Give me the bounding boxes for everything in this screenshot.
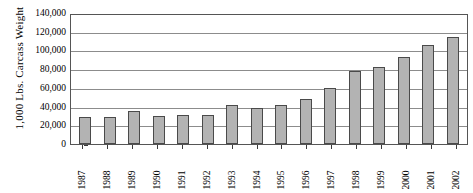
x-tick-mark — [132, 145, 133, 149]
x-tick-label-1989: 1989 — [127, 171, 137, 190]
bar-slot — [441, 15, 466, 144]
bar-1987[interactable] — [79, 117, 91, 144]
x-tick-label-2000: 2000 — [401, 171, 411, 190]
bar-slot — [122, 15, 147, 144]
x-axis-tick-labels: 1987198819891990199119921993199419951996… — [70, 145, 468, 193]
x-tick-mark — [182, 145, 183, 149]
bar-1999[interactable] — [373, 67, 385, 144]
x-tick-label-1991: 1991 — [177, 171, 187, 190]
bar-1997[interactable] — [324, 88, 336, 144]
x-axis-slot: 1994 — [244, 145, 269, 193]
x-tick-mark — [207, 145, 208, 149]
x-tick-label-2001: 2001 — [426, 171, 436, 190]
x-tick-mark — [456, 145, 457, 149]
y-tick-label: 20,000 — [18, 121, 66, 130]
x-axis-slot: 2001 — [418, 145, 443, 193]
y-tick-label: 60,000 — [18, 84, 66, 93]
x-tick-mark — [381, 145, 382, 149]
x-tick-mark — [82, 145, 83, 149]
bar-slot — [171, 15, 196, 144]
x-tick-label-1992: 1992 — [202, 171, 212, 190]
x-axis-slot: 1993 — [219, 145, 244, 193]
bar-slot — [98, 15, 123, 144]
bar-2000[interactable] — [398, 57, 410, 144]
bar-1990[interactable] — [153, 116, 165, 144]
x-tick-label-1990: 1990 — [152, 171, 162, 190]
bar-2002[interactable] — [447, 37, 459, 144]
x-tick-mark — [406, 145, 407, 149]
x-tick-label-1994: 1994 — [252, 171, 262, 190]
plot-area — [70, 14, 468, 145]
x-tick-mark — [107, 145, 108, 149]
y-tick-label: 140,000 — [18, 9, 66, 18]
x-axis-slot: 1998 — [344, 145, 369, 193]
bar-1995[interactable] — [275, 105, 287, 144]
bar-1998[interactable] — [349, 71, 361, 144]
bar-1989[interactable] — [128, 111, 140, 144]
x-tick-mark — [257, 145, 258, 149]
x-tick-mark — [306, 145, 307, 149]
x-axis-slot: 2000 — [393, 145, 418, 193]
x-tick-label-1987: 1987 — [77, 171, 87, 190]
x-axis-slot: 1999 — [369, 145, 394, 193]
y-tick-label: 100,000 — [18, 46, 66, 55]
bar-2001[interactable] — [422, 45, 434, 144]
bar-1988[interactable] — [104, 117, 116, 144]
bar-slot — [245, 15, 270, 144]
bar-series — [71, 15, 467, 144]
x-tick-mark — [281, 145, 282, 149]
y-tick-label: 80,000 — [18, 65, 66, 74]
x-tick-label-1996: 1996 — [301, 171, 311, 190]
bar-chart: 1,000 Lbs. Carcass Weight 140,000120,000… — [0, 0, 473, 193]
bar-slot — [220, 15, 245, 144]
x-tick-label-1993: 1993 — [227, 171, 237, 190]
y-tick-label: 40,000 — [18, 103, 66, 112]
x-axis-slot: 1987 — [70, 145, 95, 193]
x-axis-slot: 1992 — [194, 145, 219, 193]
bar-slot — [196, 15, 221, 144]
bar-slot — [294, 15, 319, 144]
x-axis-slot: 1990 — [145, 145, 170, 193]
x-axis-slot: 1991 — [170, 145, 195, 193]
x-tick-mark — [331, 145, 332, 149]
bar-slot — [269, 15, 294, 144]
bar-slot — [73, 15, 98, 144]
x-tick-label-1988: 1988 — [102, 171, 112, 190]
x-axis-slot: 2002 — [443, 145, 468, 193]
x-tick-mark — [157, 145, 158, 149]
bar-slot — [367, 15, 392, 144]
bar-1993[interactable] — [226, 105, 238, 144]
bar-slot — [343, 15, 368, 144]
y-tick-label: 0 — [18, 140, 66, 149]
bar-slot — [147, 15, 172, 144]
x-tick-label-1995: 1995 — [276, 171, 286, 190]
x-axis-slot: 1997 — [319, 145, 344, 193]
x-tick-label-2002: 2002 — [451, 171, 461, 190]
bar-slot — [318, 15, 343, 144]
x-axis-slot: 1996 — [294, 145, 319, 193]
bar-1992[interactable] — [202, 115, 214, 144]
x-tick-label-1999: 1999 — [376, 171, 386, 190]
x-tick-mark — [431, 145, 432, 149]
bar-slot — [416, 15, 441, 144]
x-axis-slot: 1989 — [120, 145, 145, 193]
x-tick-label-1997: 1997 — [326, 171, 336, 190]
x-tick-mark — [356, 145, 357, 149]
y-axis-tick-labels: 140,000120,000100,00080,00060,00040,0002… — [18, 0, 66, 193]
bar-slot — [392, 15, 417, 144]
x-axis-slot: 1995 — [269, 145, 294, 193]
bar-1996[interactable] — [300, 99, 312, 144]
x-tick-label-1998: 1998 — [351, 171, 361, 190]
bar-1994[interactable] — [251, 108, 263, 144]
bar-1991[interactable] — [177, 115, 189, 144]
y-tick-label: 120,000 — [18, 28, 66, 37]
x-tick-mark — [232, 145, 233, 149]
x-axis-slot: 1988 — [95, 145, 120, 193]
